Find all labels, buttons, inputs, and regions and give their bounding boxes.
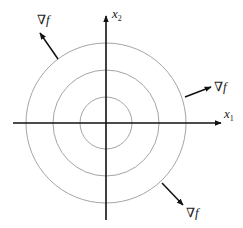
x2-axis-label: x2 — [111, 6, 122, 23]
labels: ∇f∇f∇fx2x1 — [37, 6, 234, 220]
gradient-arrow-right — [185, 87, 211, 97]
coordinate-axes — [13, 16, 221, 220]
gradient-arrow-lower-right — [162, 183, 183, 205]
x1-axis-label: x1 — [223, 106, 234, 123]
gradient-vectors — [40, 33, 211, 205]
gradient-label-lower-right: ∇f — [186, 205, 201, 220]
gradient-contour-diagram: ∇f∇f∇fx2x1 — [0, 0, 243, 228]
gradient-label-upper-left: ∇f — [37, 12, 52, 27]
gradient-arrow-upper-left — [40, 33, 58, 59]
gradient-label-right: ∇f — [214, 79, 229, 94]
